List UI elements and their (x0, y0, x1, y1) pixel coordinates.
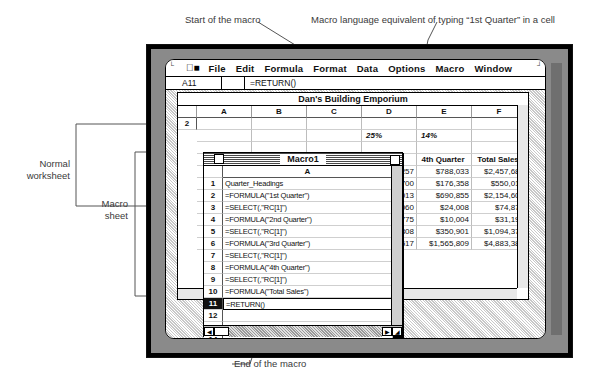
scroll-left-arrow-icon[interactable]: ◀ (204, 327, 214, 336)
worksheet-vertical-scrollbar[interactable] (517, 105, 528, 288)
worksheet-cell-q4[interactable]: $1,565,809 (417, 238, 472, 250)
menu-item-options[interactable]: Options (388, 63, 425, 74)
macro-formula-cell[interactable]: =RETURN() (223, 298, 393, 310)
worksheet-col-a[interactable]: A (197, 106, 252, 118)
annotation-end-of-macro: End of the macro (234, 358, 306, 370)
menu-item-edit[interactable]: Edit (236, 63, 255, 74)
worksheet-cell-pct-e[interactable]: 14% (417, 130, 472, 142)
macro-formula-cell[interactable]: =FORMULA("3rd Quarter") (223, 238, 393, 250)
macro-row-number[interactable]: 11 (204, 298, 223, 310)
worksheet-cell-q4[interactable]: $350,901 (417, 226, 472, 238)
worksheet-cell[interactable] (252, 130, 307, 142)
macro-row-number[interactable]: 2 (204, 190, 223, 202)
annotation-normal-worksheet-line1: Normal (6, 158, 70, 170)
macro-formula-cell[interactable]: =FORMULA("2nd Quarter") (223, 214, 393, 226)
worksheet-header-quarter4[interactable]: 4th Quarter (417, 154, 472, 166)
close-icon[interactable] (214, 154, 224, 164)
worksheet-col-d[interactable]: D (362, 106, 417, 118)
macro-formula-cell[interactable]: =FORMULA("4th Quarter") (223, 262, 393, 274)
scroll-thumb[interactable] (214, 327, 229, 336)
worksheet-col-e[interactable]: E (417, 106, 472, 118)
worksheet-cell[interactable] (197, 130, 252, 142)
scroll-track[interactable] (229, 326, 382, 337)
macro-row: 8=FORMULA("4th Quarter") (204, 262, 402, 274)
macro-window-title: Macro1 (280, 154, 326, 164)
macro-row-number[interactable]: 9 (204, 274, 223, 286)
table-row: 25% 14% (197, 130, 528, 142)
macro-row-number[interactable]: 3 (204, 202, 223, 214)
worksheet-cell[interactable] (252, 118, 307, 130)
worksheet-cell[interactable] (417, 118, 472, 130)
macro-row-number[interactable]: 8 (204, 262, 223, 274)
macro-row: 3=SELECT(,"RC[1]") (204, 202, 402, 214)
macro-window-title-bar[interactable]: Macro1 (204, 153, 402, 166)
resize-grip-icon[interactable]: ◢ (392, 327, 402, 336)
macro-formula-cell[interactable]: =SELECT(,"RC[1]") (223, 226, 393, 238)
annotation-start-of-macro: Start of the macro (185, 14, 261, 26)
macro-row-number[interactable]: 7 (204, 250, 223, 262)
macro-row-number[interactable]: 4 (204, 214, 223, 226)
cell-reference-box[interactable]: A11 (166, 77, 222, 89)
worksheet-corner-cell[interactable] (178, 106, 197, 118)
formula-input[interactable]: =RETURN() (245, 78, 296, 88)
screen: └ ■ File Edit Formula Format Data Optio… (165, 59, 546, 339)
macro-row: 1Quarter_Headings (204, 178, 402, 190)
worksheet-cell[interactable] (307, 118, 362, 130)
macro-horizontal-scrollbar[interactable]: ◀ ▶ ◢ (204, 325, 402, 336)
worksheet-cell[interactable] (307, 130, 362, 142)
macro-formula-cell[interactable]: =FORMULA("1st Quarter") (223, 190, 393, 202)
macro-row: 2=FORMULA("1st Quarter") (204, 190, 402, 202)
macro-row: 4=FORMULA("2nd Quarter") (204, 214, 402, 226)
worksheet-cell-pct-d[interactable]: 25% (362, 130, 417, 142)
menu-item-window[interactable]: Window (474, 63, 512, 74)
annotation-macro-sheet-line1: Macro (70, 198, 128, 210)
menu-item-macro[interactable]: Macro (435, 63, 464, 74)
worksheet-cell[interactable] (417, 142, 472, 154)
menubar-right-tick: ┘ (537, 62, 542, 69)
formula-bar[interactable]: A11 =RETURN() (166, 77, 545, 90)
annotation-macro-language-equivalent: Macro language equivalent of typing “1st… (311, 14, 555, 26)
worksheet-cell[interactable] (362, 118, 417, 130)
macro-row-number[interactable]: 10 (204, 286, 223, 298)
macro-rows: 1Quarter_Headings2=FORMULA("1st Quarter"… (204, 178, 402, 339)
worksheet-cell-q4[interactable]: $176,358 (417, 178, 472, 190)
macro-formula-cell[interactable]: =SELECT(,"RC[1]") (223, 250, 393, 262)
macro-formula-cell[interactable]: =SELECT(,"RC[1]") (223, 202, 393, 214)
menu-item-data[interactable]: Data (357, 63, 378, 74)
worksheet-cell-q4[interactable]: $788,033 (417, 166, 472, 178)
worksheet-cell-q4[interactable]: $24,008 (417, 202, 472, 214)
monitor-frame: └ ■ File Edit Formula Format Data Optio… (146, 44, 573, 358)
worksheet-title: Dan's Building Emporium (178, 93, 528, 106)
worksheet-cell-q4[interactable]: $690,855 (417, 190, 472, 202)
macro-vertical-scrollbar[interactable] (391, 166, 402, 325)
apple-icon[interactable]: ■ (186, 63, 200, 73)
worksheet-col-b[interactable]: B (252, 106, 307, 118)
macro-row: 6=FORMULA("3rd Quarter") (204, 238, 402, 250)
macro-row: 12 (204, 310, 402, 322)
macro-formula-cell[interactable]: Quarter_Headings (223, 178, 393, 190)
macro-row: 5=SELECT(,"RC[1]") (204, 226, 402, 238)
macro-row-number[interactable]: 6 (204, 238, 223, 250)
menu-item-formula[interactable]: Formula (264, 63, 303, 74)
macro-row-number[interactable]: 5 (204, 226, 223, 238)
menu-item-format[interactable]: Format (313, 63, 346, 74)
worksheet-cell-q4[interactable]: $10,004 (417, 214, 472, 226)
menu-bar[interactable]: └ ■ File Edit Formula Format Data Optio… (166, 60, 545, 77)
worksheet-col-c[interactable]: C (307, 106, 362, 118)
table-row: 2 (178, 118, 528, 130)
macro-row: 10=FORMULA("Total Sales") (204, 286, 402, 298)
macro-row-number[interactable]: 12 (204, 310, 223, 322)
macro-corner-cell[interactable] (204, 166, 223, 178)
worksheet-cell[interactable] (197, 118, 252, 130)
macro-formula-cell[interactable] (223, 310, 393, 322)
zoom-box-icon[interactable] (390, 155, 400, 165)
scroll-right-arrow-icon[interactable]: ▶ (382, 327, 392, 336)
macro-col-a[interactable]: A (223, 166, 393, 178)
menu-item-file[interactable]: File (209, 63, 226, 74)
worksheet-column-header-row: A B C D E F (178, 106, 528, 118)
macro-formula-cell[interactable]: =FORMULA("Total Sales") (223, 286, 393, 298)
macro-formula-cell[interactable]: =SELECT(,"RC[1]") (223, 274, 393, 286)
worksheet-row-number[interactable]: 2 (178, 118, 197, 130)
macro-window[interactable]: Macro1 A 1Quarter_Headings2=FORMULA("1st… (203, 152, 403, 337)
macro-row-number[interactable]: 1 (204, 178, 223, 190)
